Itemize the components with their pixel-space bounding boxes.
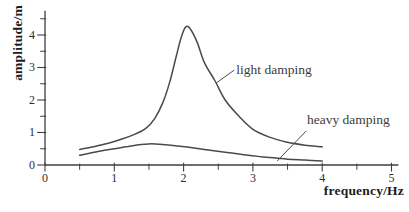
- x-tick-label: 0: [42, 171, 48, 185]
- x-tick-label: 2: [181, 171, 187, 185]
- light-damping-curve: [80, 26, 323, 149]
- y-tick-label: 1: [29, 125, 35, 139]
- axes: [45, 11, 398, 165]
- annotation-light-damping-label: light damping: [236, 62, 311, 78]
- x-axis-title: frequency/Hz: [324, 183, 404, 199]
- y-axis-title: amplitude/m: [10, 5, 26, 81]
- y-tick-label: 3: [29, 60, 35, 74]
- y-tick-label: 0: [29, 158, 35, 172]
- annotation-heavy-damping-label: heavy damping: [307, 112, 390, 128]
- y-tick-label: 4: [29, 28, 35, 42]
- light-damping-pointer-line: [216, 70, 234, 83]
- chart-canvas: 01234501234: [0, 0, 409, 212]
- x-tick-label: 1: [111, 171, 117, 185]
- annotation-pointer-lines: [216, 70, 306, 161]
- heavy-damping-pointer-line: [277, 131, 306, 161]
- curves: [80, 26, 323, 161]
- tick-labels: 01234501234: [29, 28, 395, 185]
- resonance-amplitude-frequency-chart: 01234501234 amplitude/m frequency/Hz lig…: [0, 0, 409, 212]
- x-tick-label: 3: [250, 171, 256, 185]
- y-tick-label: 2: [29, 93, 35, 107]
- axis-ticks: [37, 19, 391, 172]
